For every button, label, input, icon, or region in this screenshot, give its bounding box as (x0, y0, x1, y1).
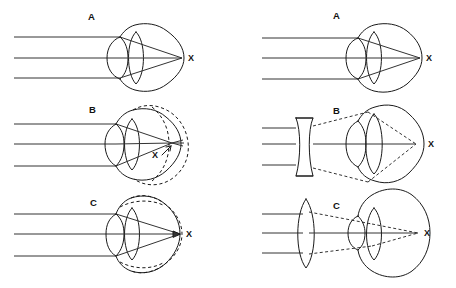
refracted-ray-bottom (368, 144, 416, 182)
normal-eyeball-dashed-arc-top (120, 201, 163, 207)
cornea-arc (116, 214, 124, 256)
panel-left-b-incoming-rays (14, 124, 116, 166)
panel-left-c-incoming-rays (14, 214, 116, 256)
refracted-ray-top (372, 224, 418, 233)
panel-right-c-refracted-rays (372, 224, 418, 246)
panel-left-a: A X (14, 11, 194, 91)
panel-right-c-focal-point-label: X (424, 228, 430, 238)
panel-right-a: A X (262, 10, 432, 92)
panel-right-a-label: A (333, 10, 340, 21)
panel-right-c-label: C (333, 200, 340, 211)
panel-left-a-label: A (88, 11, 95, 22)
panel-right-b-diverged-rays (313, 112, 416, 182)
refracted-ray-top (368, 112, 416, 144)
figure-canvas: A X B (0, 0, 456, 288)
panel-right-a-incoming-rays (262, 38, 358, 79)
elongated-eyeball-dashed-arc (152, 107, 169, 181)
panel-left-a-focal-point-label: X (188, 53, 194, 63)
panel-left-a-incoming-rays (14, 37, 120, 78)
panel-left-b-label: B (89, 104, 96, 115)
normal-eyeball-dashed-arc-bottom (120, 262, 163, 268)
panel-right-b: B X (262, 105, 434, 183)
focal-arrowhead (173, 231, 180, 237)
crystalline-lens (367, 208, 382, 260)
crystalline-lens (125, 119, 140, 170)
panel-right-b-label: B (333, 105, 340, 116)
refracted-ray-bottom (372, 233, 418, 246)
panel-right-c-incoming-rays (262, 214, 303, 253)
panel-right-b-focal-point-label: X (428, 139, 434, 149)
panel-left-b: B X (14, 104, 188, 185)
panel-left-a-refracted-rays (120, 37, 182, 78)
panel-left-c-label: C (90, 197, 97, 208)
panel-right-c-converged-rays (309, 212, 418, 254)
eye-refraction-figure: A X B (0, 0, 456, 288)
panel-right-c: C X (262, 189, 430, 277)
panel-left-c-focal-point-label: X (186, 229, 192, 239)
panel-left-b-focal-point-label: X (152, 150, 158, 160)
converged-ray-bottom (309, 246, 372, 254)
cornea-arc (116, 124, 124, 166)
panel-right-a-focal-point-label: X (426, 53, 432, 63)
diverged-ray-top (313, 112, 368, 126)
panel-right-b-incoming-rays (262, 128, 296, 165)
panel-left-c: C X (14, 196, 192, 273)
panel-right-b-refracted-rays (368, 112, 416, 182)
concave-corrective-lens (296, 118, 313, 176)
